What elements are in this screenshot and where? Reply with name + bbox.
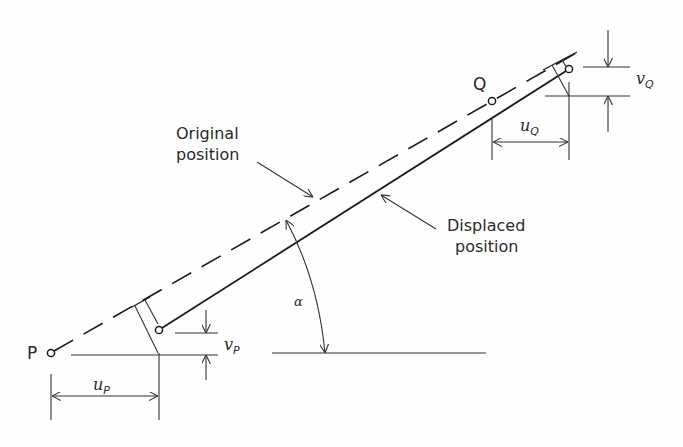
p-connector-1 [135,306,158,353]
label-displaced-1: Displaced [447,216,525,235]
label-vq: vQ [636,69,654,91]
displacement-diagram: P Q Original position Displaced position… [0,0,683,447]
label-point-q: Q [473,74,486,94]
label-uq: uQ [520,116,539,138]
point-p-original [47,349,54,356]
diagram-svg: P Q Original position Displaced position… [0,0,683,447]
label-displaced-2: position [455,237,518,256]
p-connector-2 [145,300,158,324]
label-alpha: α [294,294,303,309]
label-point-p: P [27,343,37,363]
alpha-arc [286,220,325,353]
label-original-2: position [176,145,239,164]
p-perpendicular-bar [132,297,150,307]
displaced-position-line [162,71,566,328]
original-leader-arrow [257,162,313,197]
displaced-leader-arrow [381,195,436,229]
point-q-original [488,97,495,104]
label-up: uP [93,375,110,397]
point-q-displaced [565,65,572,72]
label-vp: vP [224,335,240,357]
label-original-1: Original [176,124,239,143]
point-p-displaced [155,326,162,333]
